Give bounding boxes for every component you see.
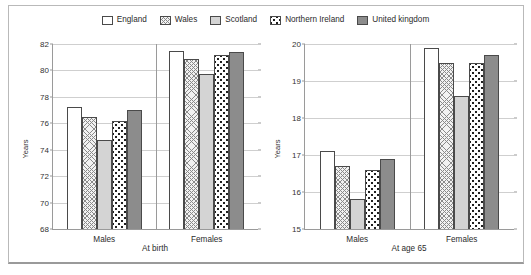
y-tick-label-at-birth-80: 80 [40, 66, 49, 75]
y-axis-title-at-birth: Years [21, 140, 30, 159]
legend-swatch-scotland-icon [210, 16, 221, 25]
bar-group-at-birth-males: Males [53, 44, 156, 229]
y-tick-mark-right-at-birth-68 [258, 229, 261, 230]
legend-item-scotland: Scotland [210, 16, 257, 25]
bar-group-at-age-65-females: Females [410, 44, 515, 229]
y-tick-label-at-age-65-16: 16 [292, 188, 301, 197]
y-tick-label-at-age-65-15: 15 [292, 225, 301, 234]
legend-label-wales: Wales [175, 16, 197, 24]
legend-label-england: England [117, 16, 147, 24]
y-tick-label-at-birth-74: 74 [40, 145, 49, 154]
bar-at-birth-females-nireland [214, 55, 229, 229]
chart-panel-at-birth: Years6870727476788082MalesFemalesAt birt… [14, 38, 262, 260]
legend-label-scotland: Scotland [225, 16, 257, 24]
bar-at-age-65-males-england [320, 151, 335, 229]
y-tick-mark-right-at-age-65-20 [514, 44, 517, 45]
y-axis-title-at-age-65: Years [273, 140, 282, 159]
legend-item-uk: United kingdom [357, 16, 429, 25]
bar-at-birth-males-wales [82, 117, 97, 229]
bar-at-age-65-males-wales [335, 166, 350, 229]
legend-label-nireland: Northern Ireland [285, 16, 344, 24]
bar-at-age-65-females-scotland [454, 96, 469, 229]
bar-at-age-65-males-nireland [365, 170, 380, 229]
y-tick-label-at-birth-78: 78 [40, 92, 49, 101]
panel-caption-at-birth: At birth [52, 244, 258, 253]
legend-item-wales: Wales [160, 16, 197, 25]
y-tick-mark-right-at-birth-78 [258, 96, 261, 97]
y-tick-mark-right-at-birth-72 [258, 176, 261, 177]
bar-at-birth-females-scotland [199, 74, 214, 229]
y-tick-mark-right-at-birth-74 [258, 149, 261, 150]
chart-legend: EnglandWalesScotlandNorthern IrelandUnit… [0, 16, 531, 25]
legend-swatch-england-icon [102, 16, 113, 25]
gridline-at-birth-68 [53, 229, 258, 230]
y-tick-label-at-age-65-17: 17 [292, 151, 301, 160]
bar-at-birth-males-scotland [97, 140, 112, 229]
gridline-at-age-65-15 [305, 229, 514, 230]
bar-at-birth-males-england [67, 107, 82, 229]
life-expectancy-chart-figure: EnglandWalesScotlandNorthern IrelandUnit… [0, 0, 531, 275]
chart-panel-at-age-65: Years151617181920MalesFemalesAt age 65 [266, 38, 518, 260]
y-tick-label-at-birth-68: 68 [40, 225, 49, 234]
plot-area-at-age-65: 151617181920MalesFemales [304, 44, 514, 230]
panel-caption-at-age-65: At age 65 [304, 244, 514, 253]
legend-swatch-uk-icon [357, 16, 368, 25]
y-tick-mark-right-at-age-65-17 [514, 155, 517, 156]
bar-at-age-65-males-scotland [350, 199, 365, 229]
y-tick-mark-right-at-birth-82 [258, 44, 261, 45]
plot-area-at-birth: 6870727476788082MalesFemales [52, 44, 258, 230]
bar-at-birth-males-nireland [112, 121, 127, 229]
y-tick-label-at-age-65-20: 20 [292, 40, 301, 49]
bar-at-age-65-males-uk [380, 159, 395, 229]
legend-item-england: England [102, 16, 147, 25]
bar-at-age-65-females-uk [484, 55, 499, 229]
y-tick-mark-right-at-age-65-15 [514, 229, 517, 230]
bar-at-age-65-females-england [424, 48, 439, 229]
legend-swatch-wales-icon [160, 16, 171, 25]
group-separator-at-age-65-1 [410, 44, 411, 229]
bar-group-at-age-65-males: Males [305, 44, 410, 229]
x-axis-label-at-birth-males: Males [93, 235, 115, 244]
bar-at-age-65-females-wales [439, 63, 454, 230]
bar-at-birth-females-england [169, 51, 184, 229]
group-separator-at-birth-1 [156, 44, 157, 229]
bar-at-birth-males-uk [127, 110, 142, 229]
y-tick-mark-right-at-birth-70 [258, 202, 261, 203]
y-tick-mark-right-at-birth-76 [258, 123, 261, 124]
legend-item-nireland: Northern Ireland [270, 16, 344, 25]
legend-label-uk: United kingdom [372, 16, 429, 24]
x-axis-label-at-birth-females: Females [191, 235, 222, 244]
y-tick-mark-right-at-age-65-18 [514, 118, 517, 119]
y-tick-mark-right-at-birth-80 [258, 70, 261, 71]
x-axis-label-at-age-65-males: Males [346, 235, 368, 244]
bar-at-birth-females-uk [229, 52, 244, 229]
bar-group-at-birth-females: Females [156, 44, 259, 229]
legend-swatch-nireland-icon [270, 16, 281, 25]
x-axis-label-at-age-65-females: Females [446, 235, 477, 244]
y-tick-label-at-age-65-18: 18 [292, 114, 301, 123]
y-tick-label-at-birth-72: 72 [40, 172, 49, 181]
y-tick-mark-right-at-age-65-16 [514, 192, 517, 193]
y-tick-label-at-birth-82: 82 [40, 40, 49, 49]
y-tick-mark-right-at-age-65-19 [514, 81, 517, 82]
bar-at-birth-females-wales [184, 59, 199, 229]
y-tick-label-at-age-65-19: 19 [292, 77, 301, 86]
y-tick-label-at-birth-70: 70 [40, 198, 49, 207]
y-tick-label-at-birth-76: 76 [40, 119, 49, 128]
bar-at-age-65-females-nireland [469, 63, 484, 230]
